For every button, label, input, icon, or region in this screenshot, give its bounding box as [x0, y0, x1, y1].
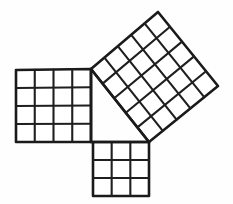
- diagram-canvas: [0, 0, 233, 204]
- bottom-square-group: [93, 142, 149, 196]
- left-square-group: [16, 69, 91, 142]
- hypotenuse-square-group: [91, 12, 218, 142]
- pythagorean-diagram: [0, 0, 233, 204]
- left-square-grid-line: [16, 106, 91, 107]
- bottom-square-outline: [93, 142, 149, 196]
